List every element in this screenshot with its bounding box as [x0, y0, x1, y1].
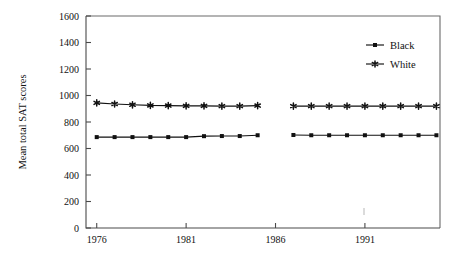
data-marker-square — [256, 133, 260, 137]
y-tick-label: 600 — [64, 143, 79, 154]
data-marker-square — [184, 135, 188, 139]
series-white — [94, 100, 439, 109]
data-marker-square — [363, 133, 367, 137]
x-tick-label: 1981 — [176, 234, 196, 245]
data-marker-square — [345, 133, 349, 137]
legend-label-white: White — [390, 59, 416, 70]
data-marker-square — [327, 133, 331, 137]
y-tick-label: 1600 — [59, 11, 79, 22]
plot-frame — [86, 16, 440, 228]
y-tick-label: 400 — [64, 170, 79, 181]
y-tick-label: 800 — [64, 117, 79, 128]
y-tick-label: 0 — [74, 223, 79, 234]
y-axis-title: Mean total SAT scores — [17, 74, 28, 169]
data-marker-square — [202, 134, 206, 138]
data-marker-square — [220, 134, 224, 138]
data-marker-square — [291, 133, 295, 137]
data-marker-square — [434, 133, 438, 137]
x-tick-label: 1991 — [355, 234, 375, 245]
data-marker-square — [381, 133, 385, 137]
data-marker-square — [148, 135, 152, 139]
data-marker-square — [166, 135, 170, 139]
data-marker-square — [309, 133, 313, 137]
data-marker-square — [113, 135, 117, 139]
series-segment-line — [97, 135, 258, 137]
data-marker-square — [238, 134, 242, 138]
sat-scores-line-chart: 0200400600800100012001400160019761981198… — [0, 0, 463, 260]
y-tick-label: 1400 — [59, 37, 79, 48]
y-tick-label: 200 — [64, 196, 79, 207]
data-marker-square — [95, 135, 99, 139]
legend-label-black: Black — [390, 40, 415, 51]
chart-legend: BlackWhite — [366, 40, 416, 70]
scan-artifact — [363, 208, 365, 215]
data-marker-square — [399, 133, 403, 137]
plot-axes — [86, 16, 440, 228]
x-tick-label: 1986 — [266, 234, 286, 245]
data-marker-square — [373, 43, 377, 47]
series-segment-line — [97, 103, 258, 106]
y-tick-label: 1000 — [59, 90, 79, 101]
y-tick-label: 1200 — [59, 64, 79, 75]
x-tick-label: 1976 — [87, 234, 107, 245]
series-black — [95, 133, 439, 139]
data-marker-square — [130, 135, 134, 139]
chart-figure: 0200400600800100012001400160019761981198… — [0, 0, 463, 260]
data-marker-square — [417, 133, 421, 137]
